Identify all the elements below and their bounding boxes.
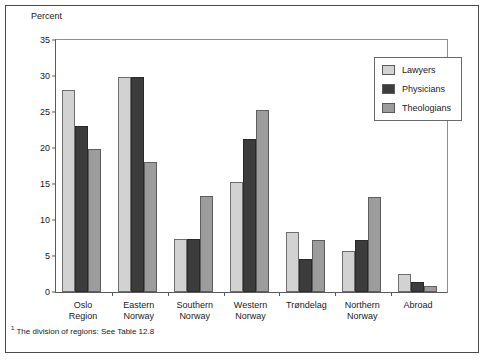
bar-physicians-6 [411,282,424,292]
legend-label-physicians: Physicians [402,84,445,94]
x-tick-mark [335,292,336,296]
bar-lawyers-3 [230,182,243,292]
x-tick-mark [112,292,113,296]
bar-theologians-2 [200,196,213,292]
y-tick-label: 30 [40,71,50,81]
bar-theologians-5 [368,197,381,292]
footnote-marker: 1 [11,325,14,331]
x-tick-mark [168,292,169,296]
x-category-line: Norway [176,311,213,322]
legend-label-theologians: Theologians [402,103,451,113]
y-tick-label: 5 [45,251,50,261]
x-category-line: Trøndelag [286,300,327,311]
footnote: 1 The division of regions: See Table 12.… [11,325,154,336]
x-category-line: Norway [345,311,380,322]
legend-item-theologians: Theologians [382,103,453,113]
y-axis-caption: Percent [31,11,62,21]
bar-lawyers-6 [398,274,411,292]
x-category-line: Oslo [69,300,98,311]
x-category-line: Northern [345,300,380,311]
bar-lawyers-4 [286,232,299,292]
chart-legend: Lawyers Physicians Theologians [374,57,462,121]
y-tick-label: 35 [40,35,50,45]
y-tick-label: 25 [40,107,50,117]
bar-lawyers-0 [62,90,75,292]
legend-item-physicians: Physicians [382,84,453,94]
x-category-line: Norway [123,311,154,322]
x-category-line: Southern [176,300,213,311]
bar-physicians-0 [75,126,88,292]
bar-physicians-4 [299,259,312,292]
x-tick-mark [279,292,280,296]
legend-swatch-physicians [382,84,395,94]
bar-lawyers-1 [118,77,131,292]
legend-label-lawyers: Lawyers [402,65,436,75]
bar-theologians-4 [312,240,325,292]
x-tick-mark [224,292,225,296]
x-category-line: Western [234,300,267,311]
bar-physicians-3 [243,139,256,292]
x-category-line: Abroad [404,300,433,311]
bar-physicians-2 [187,239,200,292]
y-tick-label: 20 [40,143,50,153]
x-category-line: Region [69,311,98,322]
bar-theologians-3 [256,110,269,292]
bar-lawyers-2 [174,239,187,292]
x-category-label: Trøndelag [286,300,327,311]
legend-item-lawyers: Lawyers [382,65,453,75]
y-tick-label: 15 [40,179,50,189]
y-tick-label: 0 [45,287,50,297]
legend-swatch-theologians [382,103,395,113]
x-category-label: Abroad [404,300,433,311]
bar-theologians-1 [144,162,157,292]
x-tick-mark [391,292,392,296]
bar-theologians-0 [88,149,101,292]
x-category-label: SouthernNorway [176,300,213,322]
bar-physicians-5 [355,240,368,292]
bar-physicians-1 [131,77,144,292]
legend-swatch-lawyers [382,65,395,75]
bar-theologians-6 [424,286,437,292]
x-category-label: OsloRegion [69,300,98,322]
footnote-text: The division of regions: See Table 12.8 [16,327,154,336]
x-category-label: WesternNorway [234,300,267,322]
x-category-label: NorthernNorway [345,300,380,322]
x-category-line: Eastern [123,300,154,311]
chart-figure: Percent 05101520253035 OsloRegionEastern… [0,0,484,361]
x-category-line: Norway [234,311,267,322]
y-tick-label: 10 [40,215,50,225]
x-category-label: EasternNorway [123,300,154,322]
bar-lawyers-5 [342,251,355,292]
